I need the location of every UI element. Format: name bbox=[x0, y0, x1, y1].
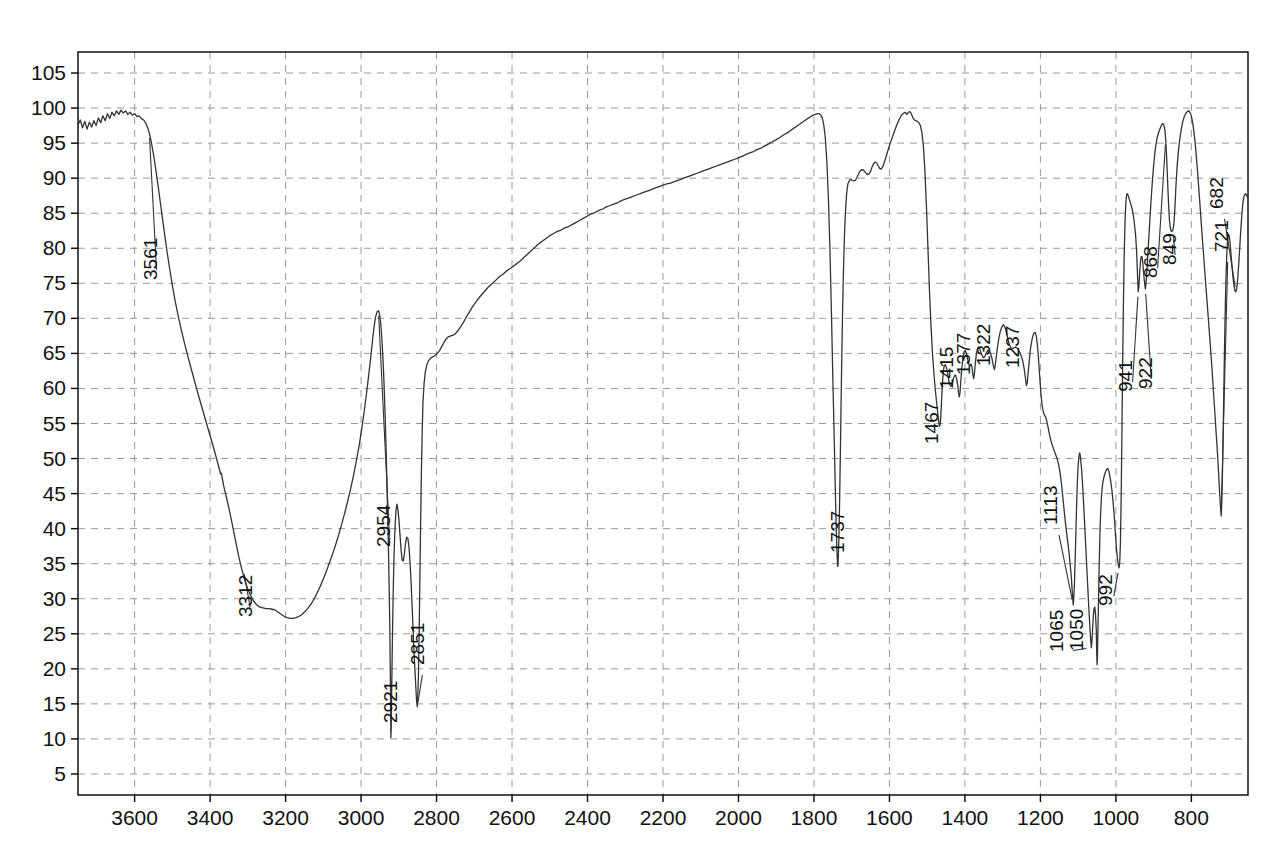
y-axis-tick-label: 55 bbox=[43, 412, 66, 435]
peak-label: 721 bbox=[1211, 220, 1232, 252]
peak-label: 2851 bbox=[407, 623, 428, 665]
x-axis-tick-label: 3400 bbox=[187, 806, 234, 829]
peak-label: 868 bbox=[1140, 246, 1161, 278]
y-axis-tick-label: 75 bbox=[43, 271, 66, 294]
peak-label: 1237 bbox=[1002, 326, 1023, 368]
y-axis-tick-label: 40 bbox=[43, 517, 66, 540]
peak-label: 1467 bbox=[921, 402, 942, 444]
peak-label: 1377 bbox=[953, 333, 974, 375]
y-axis-tick-label: 70 bbox=[43, 306, 66, 329]
x-axis-tick-label: 2000 bbox=[715, 806, 762, 829]
peak-label: 849 bbox=[1159, 233, 1180, 265]
x-axis-tick-label: 2600 bbox=[489, 806, 536, 829]
y-axis-tick-label: 45 bbox=[43, 482, 66, 505]
y-axis-tick-label: 20 bbox=[43, 657, 66, 680]
ir-spectrum-chart: 5101520253035404550556065707580859095100… bbox=[0, 0, 1280, 867]
peak-label: 1322 bbox=[973, 324, 994, 366]
y-axis-tick-label: 100 bbox=[31, 96, 66, 119]
x-axis-tick-label: 1800 bbox=[791, 806, 838, 829]
peak-label: 3561 bbox=[140, 238, 161, 280]
peak-label: 2921 bbox=[380, 681, 401, 723]
y-axis-tick-label: 90 bbox=[43, 166, 66, 189]
x-axis-tick-label: 1600 bbox=[866, 806, 913, 829]
peak-label: 922 bbox=[1135, 357, 1156, 389]
peak-label: 941 bbox=[1115, 360, 1136, 392]
y-axis-tick-label: 85 bbox=[43, 201, 66, 224]
y-axis-tick-label: 65 bbox=[43, 341, 66, 364]
x-axis-tick-label: 800 bbox=[1174, 806, 1209, 829]
y-axis-tick-label: 25 bbox=[43, 622, 66, 645]
peak-label: 992 bbox=[1095, 574, 1116, 606]
peak-label: 1113 bbox=[1040, 486, 1061, 525]
chart-background bbox=[0, 0, 1280, 867]
y-axis-tick-label: 60 bbox=[43, 376, 66, 399]
ir-spectrum-page: 5101520253035404550556065707580859095100… bbox=[0, 0, 1280, 867]
y-axis-tick-label: 30 bbox=[43, 587, 66, 610]
y-axis-tick-label: 15 bbox=[43, 692, 66, 715]
x-axis-tick-label: 1400 bbox=[942, 806, 989, 829]
y-axis-tick-label: 80 bbox=[43, 236, 66, 259]
y-axis-tick-label: 105 bbox=[31, 61, 66, 84]
y-axis-tick-label: 35 bbox=[43, 552, 66, 575]
x-axis-tick-labels: 3600340032003000280026002400220020001800… bbox=[111, 806, 1209, 829]
x-axis-tick-label: 2400 bbox=[564, 806, 611, 829]
y-axis-tick-label: 10 bbox=[43, 727, 66, 750]
y-axis-tick-label: 50 bbox=[43, 447, 66, 470]
x-axis-tick-label: 2200 bbox=[640, 806, 687, 829]
x-axis-tick-label: 1200 bbox=[1017, 806, 1064, 829]
peak-label: 1050 bbox=[1066, 609, 1087, 651]
peak-label: 1737 bbox=[827, 511, 848, 553]
peak-label: 682 bbox=[1206, 177, 1227, 209]
y-axis-tick-label: 95 bbox=[43, 131, 66, 154]
peak-label: 2954 bbox=[373, 504, 394, 547]
x-axis-tick-label: 3000 bbox=[338, 806, 385, 829]
peak-label: 1065 bbox=[1046, 610, 1067, 652]
x-axis-tick-label: 2800 bbox=[413, 806, 460, 829]
x-axis-tick-label: 3200 bbox=[262, 806, 309, 829]
y-axis-tick-label: 5 bbox=[54, 762, 66, 785]
x-axis-tick-label: 3600 bbox=[111, 806, 158, 829]
x-axis-tick-label: 1000 bbox=[1093, 806, 1140, 829]
peak-label: 3312 bbox=[235, 575, 256, 617]
